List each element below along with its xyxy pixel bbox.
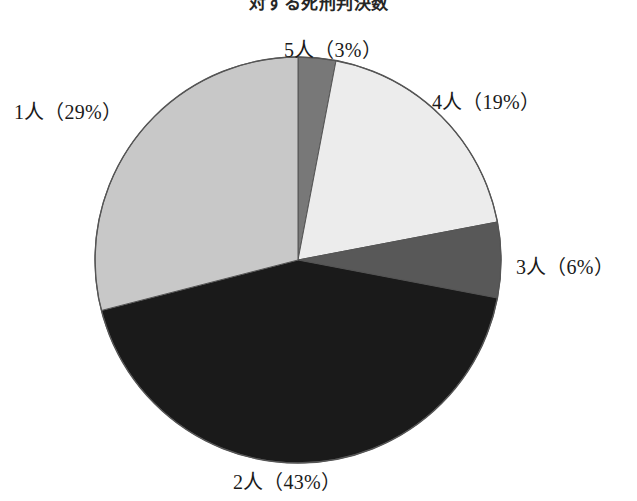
- pie-label-1nin: 1人（29%）: [14, 96, 122, 125]
- pie-chart-figure: 対する死刑判決数 5人（3%） 4人（19%） 3人（6%） 2人（43%） 1…: [0, 0, 637, 501]
- pie-slice-group: [95, 57, 501, 463]
- pie-label-3nin: 3人（6%）: [516, 251, 614, 280]
- pie-label-2nin: 2人（43%）: [233, 466, 341, 495]
- pie-label-4nin: 4人（19%）: [432, 86, 540, 115]
- pie-label-5nin: 5人（3%）: [284, 34, 382, 63]
